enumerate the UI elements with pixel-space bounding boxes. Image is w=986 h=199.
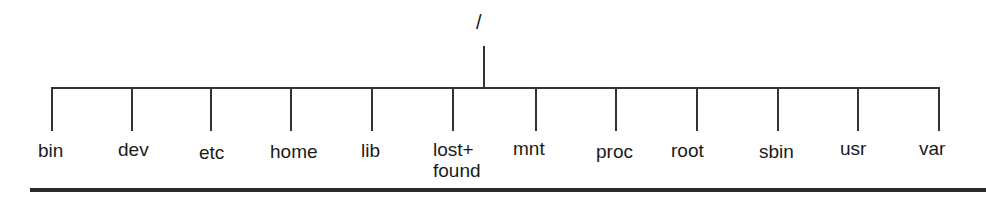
directory-tree-diagram: / bin dev etc home lib lost+ found mnt p…	[0, 0, 986, 199]
branch-tick-proc	[615, 88, 617, 131]
node-root: root	[671, 141, 704, 161]
branch-tick-lost-found	[452, 88, 454, 131]
node-proc: proc	[596, 142, 633, 162]
branch-tick-home	[290, 88, 292, 131]
branch-tick-var	[938, 88, 940, 131]
node-etc: etc	[199, 143, 224, 163]
bottom-rule-divider	[30, 188, 986, 192]
branch-tick-root	[696, 88, 698, 131]
node-mnt: mnt	[513, 139, 545, 159]
node-lib: lib	[361, 141, 380, 161]
branch-tick-usr	[857, 88, 859, 131]
node-var: var	[919, 139, 945, 159]
node-lost-found-line1: lost+	[433, 140, 474, 160]
branch-tick-sbin	[777, 88, 779, 131]
root-node-label: /	[476, 10, 482, 34]
branch-tick-etc	[210, 88, 212, 131]
branch-bar-line	[51, 87, 940, 89]
node-usr: usr	[840, 139, 866, 159]
branch-tick-bin	[51, 88, 53, 131]
node-sbin: sbin	[759, 142, 794, 162]
branch-tick-mnt	[535, 88, 537, 131]
branch-tick-lib	[371, 88, 373, 131]
root-stem-line	[483, 46, 485, 88]
node-dev: dev	[118, 140, 149, 160]
node-lost-found-line2: found	[433, 161, 481, 181]
branch-tick-dev	[131, 88, 133, 131]
node-bin: bin	[38, 141, 63, 161]
node-home: home	[270, 142, 318, 162]
